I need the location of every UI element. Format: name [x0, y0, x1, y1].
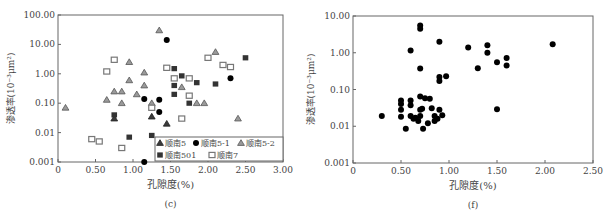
x-tick-label: 0: [350, 166, 356, 176]
data-point: [164, 65, 170, 70]
data-point: [436, 107, 442, 113]
data-point: [171, 83, 177, 88]
data-point: [417, 113, 423, 119]
y-tick-label: 0.10: [35, 98, 55, 108]
legend-marker: [209, 152, 215, 157]
data-point: [408, 48, 414, 54]
data-point: [148, 113, 155, 119]
data-point: [111, 88, 118, 94]
data-point: [213, 81, 219, 86]
data-point: [398, 107, 404, 113]
data-point: [201, 100, 208, 106]
x-tick-label: 0.50: [85, 165, 105, 175]
chart-f: 00.501.001.502.002.500.0010.010.101.0010…: [300, 0, 606, 215]
data-point: [419, 106, 425, 112]
y-tick-label: 0.10: [330, 85, 350, 95]
data-point: [484, 42, 490, 48]
data-point: [443, 73, 449, 79]
data-point: [504, 55, 510, 61]
legend-label: 顺南7: [217, 150, 238, 160]
data-point: [436, 78, 442, 84]
data-point: [141, 82, 148, 88]
data-point: [103, 97, 110, 103]
y-tick-label: 10.00: [324, 11, 350, 21]
x-tick-label: 1.50: [487, 166, 507, 176]
y-tick-label: 10.00: [29, 39, 55, 49]
data-point: [141, 96, 147, 102]
data-point: [417, 66, 423, 72]
data-point: [126, 135, 132, 140]
data-point: [212, 49, 219, 55]
data-point: [186, 93, 192, 98]
data-point: [427, 96, 433, 102]
data-point: [156, 27, 163, 33]
y-tick-label: 0.01: [330, 121, 350, 131]
data-point: [141, 159, 147, 165]
chart-c: 00.501.001.502.002.503.000.0010.010.101.…: [0, 0, 300, 215]
data-point: [118, 88, 125, 94]
data-point: [504, 62, 510, 68]
plot-frame: [353, 16, 593, 163]
data-point: [550, 41, 556, 47]
panel-label: (c): [164, 199, 176, 209]
legend-label: 顺南5-2: [246, 138, 275, 148]
data-point: [243, 55, 249, 60]
data-point: [484, 50, 490, 56]
x-tick-label: 2.50: [583, 166, 603, 176]
legend-marker: [157, 152, 163, 157]
data-point: [425, 120, 431, 126]
data-point: [429, 105, 435, 111]
data-point: [494, 59, 500, 65]
data-point: [379, 113, 385, 119]
y-axis-label: 渗透率(10⁻³μm²): [305, 54, 316, 126]
data-point: [420, 126, 426, 132]
data-point: [156, 109, 162, 115]
data-point: [171, 92, 177, 97]
legend-label: 顺南5: [165, 138, 186, 148]
data-point: [126, 59, 133, 65]
legend-marker: [193, 140, 199, 146]
data-point: [171, 76, 177, 81]
data-point: [179, 116, 185, 121]
data-point: [228, 75, 234, 81]
data-point: [465, 44, 471, 50]
data-point: [398, 101, 404, 107]
data-point: [186, 76, 192, 81]
x-tick-label: 3.00: [273, 165, 293, 175]
data-point: [494, 106, 500, 112]
data-point: [434, 116, 440, 122]
x-tick-label: 0.50: [391, 166, 411, 176]
legend-label: 顺南501: [165, 150, 196, 160]
data-point: [126, 77, 133, 83]
data-point: [235, 115, 242, 121]
data-point: [156, 97, 162, 103]
x-axis-label: 孔隙度(%): [449, 179, 496, 191]
data-point: [164, 37, 170, 43]
data-point: [193, 100, 200, 106]
scatter-plot-f: 00.501.001.502.002.500.0010.010.101.0010…: [300, 0, 606, 215]
x-axis-label: 孔隙度(%): [147, 178, 194, 190]
y-tick-label: 1.00: [35, 69, 55, 79]
data-point: [205, 55, 211, 60]
data-point: [436, 39, 442, 45]
y-axis-label: 渗透率(10⁻³μm²): [5, 53, 16, 125]
data-point: [111, 112, 117, 117]
data-point: [439, 112, 445, 118]
x-tick-label: 1.50: [160, 165, 180, 175]
legend-label: 顺南5-1: [201, 138, 230, 148]
y-tick-label: 0.001: [324, 158, 350, 168]
y-tick-label: 1.00: [330, 48, 350, 58]
data-point: [220, 62, 226, 67]
data-point: [62, 104, 69, 110]
y-tick-label: 0.001: [29, 157, 55, 167]
data-point: [119, 145, 125, 150]
data-point: [118, 100, 125, 106]
x-tick-label: 2.00: [535, 166, 555, 176]
data-point: [149, 133, 155, 138]
data-point: [89, 137, 95, 142]
data-point: [398, 114, 404, 120]
x-tick-label: 1.00: [123, 165, 143, 175]
y-tick-label: 0.01: [35, 128, 55, 138]
data-point: [163, 120, 170, 126]
x-tick-label: 1.00: [439, 166, 459, 176]
